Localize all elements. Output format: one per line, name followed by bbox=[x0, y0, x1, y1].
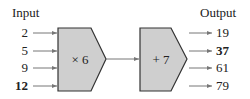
input-value: 12 bbox=[15, 78, 28, 93]
machine-operation: + 7 bbox=[152, 52, 170, 67]
input-value: 2 bbox=[22, 25, 29, 40]
input-label: Input bbox=[12, 5, 40, 20]
input-value: 5 bbox=[22, 43, 29, 58]
output-value: 79 bbox=[216, 78, 229, 93]
input-value: 9 bbox=[22, 60, 29, 75]
output-value: 37 bbox=[216, 43, 230, 58]
output-arrows bbox=[189, 33, 212, 86]
function-machine-diagram: Input Output 2 5 9 12 × 6 + 7 19 37 61 7… bbox=[0, 0, 250, 99]
output-value: 61 bbox=[216, 60, 229, 75]
machine-operation: × 6 bbox=[71, 52, 89, 67]
input-arrows bbox=[33, 33, 57, 86]
output-label: Output bbox=[200, 5, 237, 20]
output-value: 19 bbox=[216, 25, 229, 40]
